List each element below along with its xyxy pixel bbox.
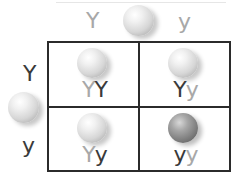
genotype-label: YY	[49, 79, 140, 101]
top-allele-recessive: y	[178, 11, 191, 33]
cell-Yy-bottom: Yy	[49, 108, 140, 173]
yellow-pea-icon	[168, 48, 198, 78]
genotype-label: yy	[140, 144, 231, 166]
yellow-pea-icon	[77, 113, 107, 143]
genotype-label: Yy	[49, 144, 140, 166]
allele-1: Y	[173, 77, 185, 102]
allele-1: y	[173, 142, 185, 167]
cell-YY: YY	[49, 43, 140, 108]
top-allele-dominant: Y	[86, 10, 99, 32]
top-parent-yellow-pea-icon	[123, 5, 154, 36]
allele-1: Y	[82, 142, 94, 167]
yellow-pea-icon	[77, 48, 107, 78]
left-allele-recessive: y	[22, 135, 35, 157]
cell-yy: yy	[140, 108, 231, 173]
left-parent-yellow-pea-icon	[8, 92, 39, 123]
left-allele-dominant: Y	[23, 63, 36, 85]
allele-2: Y	[95, 77, 107, 102]
allele-2: y	[186, 77, 198, 102]
allele-2: y	[186, 142, 198, 167]
cell-Yy-top: Yy	[140, 43, 231, 108]
genotype-label: Yy	[140, 79, 231, 101]
allele-2: y	[95, 142, 107, 167]
top-divider-line	[56, 2, 226, 3]
green-pea-icon	[168, 113, 198, 143]
allele-1: Y	[82, 77, 94, 102]
